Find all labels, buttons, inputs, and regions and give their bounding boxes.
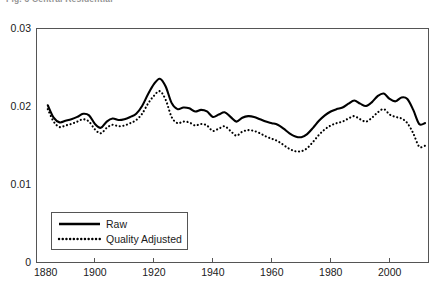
series-line-raw bbox=[48, 79, 425, 138]
data-series-group bbox=[48, 79, 425, 152]
legend-label-raw: Raw bbox=[106, 218, 127, 230]
y-tick-label: 0.01 bbox=[11, 178, 32, 190]
y-tick-label: 0.03 bbox=[11, 22, 32, 34]
x-tick-label: 1980 bbox=[319, 266, 343, 278]
chart-legend: Raw Quality Adjusted bbox=[52, 213, 188, 250]
x-tick-label: 2000 bbox=[378, 266, 402, 278]
line-chart: 1880190019201940196019802000 00.010.020.… bbox=[0, 0, 446, 295]
y-tick-label: 0.02 bbox=[11, 100, 32, 112]
x-tick-label: 1960 bbox=[260, 266, 284, 278]
figure-container: Fig. 3 Central Residential 1880190019201… bbox=[0, 0, 446, 295]
x-tick-label: 1900 bbox=[83, 266, 107, 278]
x-axis-tick-labels: 1880190019201940196019802000 bbox=[34, 266, 402, 278]
x-axis-tick-marks bbox=[36, 258, 390, 262]
x-tick-label: 1920 bbox=[142, 266, 166, 278]
y-axis-tick-labels: 00.010.020.03 bbox=[11, 22, 32, 268]
x-tick-label: 1940 bbox=[201, 266, 225, 278]
x-tick-label: 1880 bbox=[34, 266, 58, 278]
y-tick-label: 0 bbox=[25, 256, 31, 268]
legend-label-quality-adjusted: Quality Adjusted bbox=[106, 233, 182, 245]
